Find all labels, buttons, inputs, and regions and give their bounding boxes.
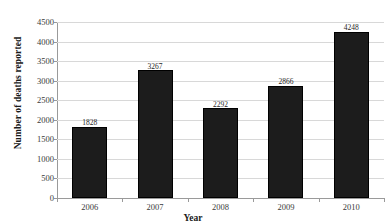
y-tick-label: 4500 — [8, 18, 54, 27]
bar-value-label: 4248 — [344, 24, 359, 32]
y-tick-label: 3000 — [8, 77, 54, 86]
bar-value-label: 2866 — [278, 78, 293, 86]
y-tick-mark — [54, 22, 57, 23]
x-axis-title: Year — [0, 213, 386, 223]
bar-value-label: 3267 — [148, 63, 163, 71]
y-tick-label: 4000 — [8, 38, 54, 47]
y-tick-label: 2000 — [8, 116, 54, 125]
y-tick-label: 3500 — [8, 57, 54, 66]
x-tick-label: 2010 — [321, 203, 381, 212]
bar: 4248 — [334, 32, 369, 198]
plot-area: 18283267229228664248 — [57, 22, 384, 198]
x-tick-label: 2007 — [125, 203, 185, 212]
bar-value-label: 1828 — [82, 119, 97, 127]
bar: 1828 — [72, 127, 107, 198]
x-tick-label: 2006 — [60, 203, 120, 212]
x-tick-label: 2009 — [256, 203, 316, 212]
y-tick-mark — [54, 178, 57, 179]
bar: 2866 — [268, 86, 303, 198]
y-tick-mark — [54, 120, 57, 121]
y-tick-label: 1500 — [8, 135, 54, 144]
x-tick-mark — [253, 199, 254, 202]
x-tick-mark — [384, 199, 385, 202]
x-tick-label: 2008 — [191, 203, 251, 212]
bar: 3267 — [138, 70, 173, 198]
gridline — [57, 22, 384, 23]
y-tick-label: 0 — [8, 194, 54, 203]
y-tick-mark — [54, 100, 57, 101]
y-tick-label: 500 — [8, 174, 54, 183]
y-tick-mark — [54, 159, 57, 160]
x-tick-mark — [122, 199, 123, 202]
y-tick-label: 1000 — [8, 155, 54, 164]
y-tick-mark — [54, 139, 57, 140]
bar-value-label: 2292 — [213, 101, 228, 109]
x-tick-mark — [57, 199, 58, 202]
bar-chart: Number of deaths reported 18283267229228… — [0, 0, 386, 223]
y-tick-mark — [54, 42, 57, 43]
x-tick-mark — [319, 199, 320, 202]
x-tick-mark — [188, 199, 189, 202]
x-axis-line — [57, 198, 385, 199]
y-tick-mark — [54, 81, 57, 82]
y-tick-label: 2500 — [8, 96, 54, 105]
y-tick-mark — [54, 61, 57, 62]
bar: 2292 — [203, 108, 238, 198]
